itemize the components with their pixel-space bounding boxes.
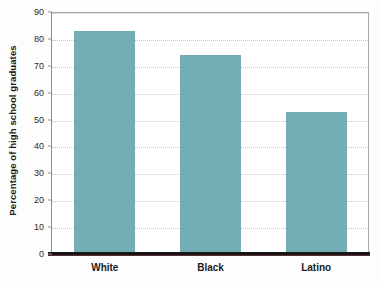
y-axis-tick-mark — [48, 146, 52, 147]
x-axis-baseline-accent — [48, 255, 370, 256]
y-axis-tick-mark — [48, 173, 52, 174]
bar — [180, 55, 241, 254]
y-axis-title: Percentage of high school graduates — [0, 0, 24, 260]
y-axis-tick-label: 20 — [34, 195, 44, 205]
y-axis-tick-label: 80 — [34, 34, 44, 44]
y-axis-tick-label: 30 — [34, 168, 44, 178]
y-axis-tick-mark — [48, 92, 52, 93]
y-axis-tick-label: 0 — [39, 249, 44, 259]
bar — [74, 31, 135, 254]
x-axis-tick-label: White — [91, 262, 118, 273]
y-axis-tick-label: 90 — [34, 7, 44, 17]
y-axis-tick-mark — [48, 38, 52, 39]
x-axis-tick-label: Black — [197, 262, 224, 273]
y-axis-tick-label: 70 — [34, 61, 44, 71]
bar-chart: Percentage of high school graduates 0102… — [0, 0, 381, 286]
y-axis-tick-mark — [48, 12, 52, 13]
y-axis-tick-label: 50 — [34, 115, 44, 125]
y-axis-tick-label: 40 — [34, 141, 44, 151]
x-axis-tick-labels: WhiteBlackLatino — [52, 258, 369, 280]
gridline — [52, 13, 368, 14]
y-axis-title-label: Percentage of high school graduates — [7, 45, 18, 215]
y-axis-tick-label: 10 — [34, 222, 44, 232]
y-axis-tick-mark — [48, 119, 52, 120]
y-axis-tick-labels: 0102030405060708090 — [24, 12, 48, 254]
y-axis-tick-mark — [48, 65, 52, 66]
plot-area — [52, 12, 369, 254]
bar — [286, 112, 347, 255]
y-axis-tick-mark — [48, 200, 52, 201]
y-axis-tick-mark — [48, 227, 52, 228]
y-axis-tick-label: 60 — [34, 88, 44, 98]
x-axis-tick-label: Latino — [301, 262, 331, 273]
y-axis-tick-mark — [48, 254, 52, 255]
